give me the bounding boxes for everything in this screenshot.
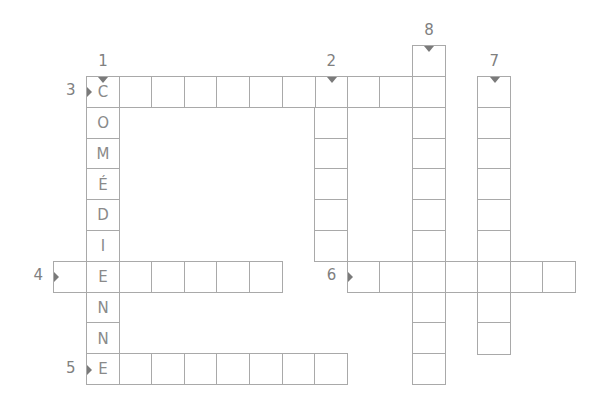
crossword-cell[interactable]: I [86, 230, 120, 262]
crossword-cell[interactable] [184, 261, 218, 293]
crossword-cell[interactable] [151, 76, 185, 108]
crossword-cell[interactable] [412, 138, 446, 170]
crossword-cell[interactable]: D [86, 199, 120, 231]
crossword-cell[interactable]: E [86, 261, 120, 293]
clue-number-6: 6 [327, 268, 337, 283]
crossword-cell[interactable]: M [86, 138, 120, 170]
crossword-cell[interactable] [412, 76, 446, 108]
crossword-cell[interactable] [347, 76, 381, 108]
crossword-cell[interactable] [510, 261, 544, 293]
crossword-cell[interactable] [314, 353, 348, 385]
crossword-cell[interactable] [314, 107, 348, 139]
crossword-cell[interactable] [119, 261, 153, 293]
crossword-cell[interactable] [412, 168, 446, 200]
cell-letter: D [97, 206, 109, 224]
crossword-cell[interactable] [412, 107, 446, 139]
crossword-cell[interactable] [119, 353, 153, 385]
crossword-cell[interactable] [477, 292, 511, 324]
crossword-cell[interactable]: N [86, 322, 120, 354]
crossword-cell[interactable] [379, 261, 413, 293]
crossword-cell[interactable] [314, 168, 348, 200]
crossword-cell[interactable] [477, 107, 511, 139]
clue-number-5: 5 [66, 361, 76, 376]
cell-letter: I [101, 237, 105, 255]
crossword-cell[interactable] [216, 76, 250, 108]
crossword-cell[interactable]: N [86, 292, 120, 324]
crossword-cell[interactable] [412, 292, 446, 324]
crossword-cell[interactable] [477, 199, 511, 231]
crossword-cell[interactable] [249, 353, 283, 385]
crossword-cell[interactable] [412, 322, 446, 354]
crossword-cell[interactable] [412, 230, 446, 262]
crossword-cell[interactable] [282, 353, 316, 385]
crossword-cell[interactable] [216, 261, 250, 293]
cell-letter: E [98, 360, 107, 378]
right-arrow-icon [54, 272, 59, 282]
right-arrow-icon [87, 87, 92, 97]
clue-number-3: 3 [66, 83, 76, 98]
clue-number-8: 8 [424, 23, 434, 38]
crossword-cell[interactable] [477, 322, 511, 354]
crossword-cell[interactable] [249, 261, 283, 293]
crossword-cell[interactable] [477, 138, 511, 170]
crossword-cell[interactable] [184, 353, 218, 385]
crossword-cell[interactable] [412, 199, 446, 231]
crossword-cell[interactable] [314, 230, 348, 262]
right-arrow-icon [87, 365, 92, 375]
crossword-cell[interactable] [412, 353, 446, 385]
crossword-cell[interactable] [412, 261, 446, 293]
clue-number-7: 7 [490, 54, 500, 69]
clue-number-2: 2 [327, 54, 337, 69]
crossword-cell[interactable]: É [86, 168, 120, 200]
crossword-cell[interactable] [151, 353, 185, 385]
crossword-cell[interactable] [477, 261, 511, 293]
crossword-cell[interactable] [184, 76, 218, 108]
cell-letter: O [97, 114, 109, 132]
crossword-cell[interactable] [445, 261, 479, 293]
down-arrow-icon [424, 46, 434, 52]
down-arrow-icon [327, 77, 337, 83]
crossword-cell[interactable] [314, 199, 348, 231]
down-arrow-icon [98, 77, 108, 83]
crossword-cell[interactable] [477, 168, 511, 200]
cell-letter: É [98, 176, 107, 194]
crossword-cell[interactable] [249, 76, 283, 108]
cell-letter: E [98, 268, 107, 286]
down-arrow-icon [490, 77, 500, 83]
crossword-cell[interactable] [216, 353, 250, 385]
cell-letter: N [97, 330, 108, 348]
cell-letter: C [98, 83, 108, 101]
crossword-cell[interactable] [282, 76, 316, 108]
clue-number-1: 1 [98, 54, 108, 69]
crossword-grid: COMÉDIENNE12345678 [0, 0, 611, 407]
crossword-cell[interactable] [151, 261, 185, 293]
crossword-cell[interactable] [477, 230, 511, 262]
crossword-cell[interactable] [379, 76, 413, 108]
crossword-cell[interactable] [119, 76, 153, 108]
cell-letter: M [97, 145, 110, 163]
crossword-cell[interactable] [314, 138, 348, 170]
clue-number-4: 4 [33, 268, 43, 283]
crossword-cell[interactable] [542, 261, 576, 293]
cell-letter: N [97, 299, 108, 317]
right-arrow-icon [348, 272, 353, 282]
crossword-cell[interactable]: O [86, 107, 120, 139]
